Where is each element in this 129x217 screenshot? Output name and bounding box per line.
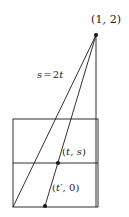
mid-paren-close: ) [82,146,86,157]
apex-point-label: (1, 2) [91,14,121,25]
slope-line-from-t-prime [45,35,96,206]
base-paren-close: ) [76,182,80,193]
apex-paren-close: ) [117,13,121,26]
equals-sign: = [42,69,52,80]
mid-point-dot [56,161,60,165]
mid-point-label: (t, s) [62,147,86,157]
apex-point-dot [94,33,98,37]
apex-y-value: 2 [110,13,117,26]
geometry-figure: (1, 2) s=2t (t, s) (t′, 0) [0,0,129,217]
slope-rhs-variable: t [59,69,63,80]
base-point-label: (t′, 0) [52,183,80,193]
apex-separator: , [103,13,110,26]
apex-x-value: 1 [95,13,102,26]
slope-equation-label: s=2t [37,70,63,80]
base-point-dot [43,204,47,208]
